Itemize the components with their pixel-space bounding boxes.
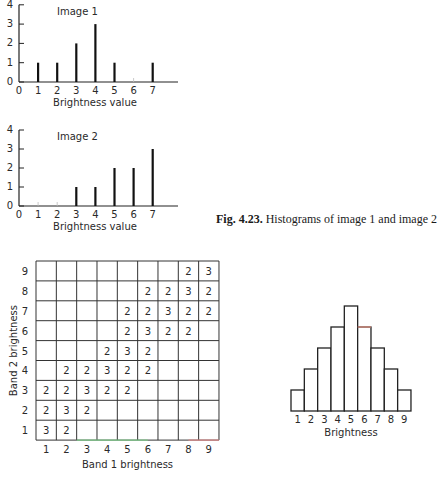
grid-cell-count: 3 — [185, 286, 191, 297]
y-tick-label: 2 — [7, 37, 13, 48]
y-tick-label: 2 — [7, 162, 13, 173]
band1-tick-label: 9 — [206, 444, 212, 455]
y-tick-label: 4 — [7, 0, 13, 10]
x-tick-label: 2 — [54, 209, 60, 220]
grid-cell-count: 2 — [84, 405, 90, 416]
histogram-bar — [398, 390, 411, 411]
x-tick-label: 3 — [73, 209, 79, 220]
grid-cell-count: 3 — [206, 266, 212, 277]
y-tick-label: 3 — [7, 143, 13, 154]
y-tick-label: 1 — [7, 181, 13, 192]
grid-cell-count: 2 — [124, 365, 130, 376]
band2-tick-label: 6 — [22, 326, 28, 337]
grid-cell-count: 3 — [84, 385, 90, 396]
grid-cell-count: 2 — [124, 385, 130, 396]
grid-cell-count: 2 — [124, 306, 130, 317]
x-tick-label: 5 — [111, 209, 117, 220]
grid-cell-count: 3 — [124, 346, 130, 357]
band1-tick-label: 4 — [104, 444, 110, 455]
band2-tick-label: 4 — [22, 365, 28, 376]
grid-cell-count: 2 — [84, 365, 90, 376]
grid-cell-count: 2 — [206, 306, 212, 317]
grid-cell-count: 2 — [165, 326, 171, 337]
brightness-tick-label: 9 — [401, 414, 407, 425]
histogram-bar — [371, 348, 384, 411]
brightness-tick-label: 6 — [361, 414, 367, 425]
histogram-bar — [304, 369, 317, 411]
grid-cell-count: 2 — [124, 326, 130, 337]
brightness-tick-label: 7 — [374, 414, 380, 425]
band2-tick-label: 5 — [22, 346, 28, 357]
x-tick-label: 5 — [111, 85, 117, 96]
grid-cell-count: 3 — [43, 425, 49, 436]
grid-cell-count: 2 — [63, 385, 69, 396]
brightness-tick-label: 3 — [321, 414, 327, 425]
figure-caption: Fig. 4.23. Histograms of image 1 and ima… — [216, 212, 437, 227]
histogram-bar — [291, 390, 304, 411]
band1-tick-label: 5 — [124, 444, 130, 455]
x-tick-label: 2 — [54, 85, 60, 96]
histogram-bar — [331, 327, 344, 411]
band1-tick-label: 6 — [145, 444, 151, 455]
grid-cell-count: 2 — [63, 425, 69, 436]
caption-text: Histograms of image 1 and image 2 — [266, 212, 437, 226]
grid-cell-count: 2 — [185, 326, 191, 337]
x-tick-label: 4 — [92, 209, 98, 220]
brightness-tick-label: 8 — [388, 414, 394, 425]
y-tick-label: 1 — [7, 57, 13, 68]
x-tick-label: 6 — [130, 209, 136, 220]
image1-histogram-title: Image 1 — [57, 6, 98, 17]
band1-axis-label: Band 1 brightness — [82, 459, 173, 470]
grid-cell-count: 2 — [206, 286, 212, 297]
brightness-axis-label: Brightness — [324, 427, 377, 438]
grid-cell-count: 3 — [165, 306, 171, 317]
x-tick-label: 7 — [150, 85, 156, 96]
band2-tick-label: 8 — [22, 286, 28, 297]
grid-cell-count: 2 — [145, 306, 151, 317]
grid-cell-count: 3 — [104, 365, 110, 376]
band1-tick-label: 1 — [43, 444, 49, 455]
x-tick-label: 7 — [150, 209, 156, 220]
grid-cell-count: 3 — [145, 326, 151, 337]
grid-cell-count: 2 — [43, 405, 49, 416]
histogram-bar — [358, 327, 371, 411]
y-tick-label: 0 — [7, 200, 13, 211]
image2-histogram-x-label: Brightness value — [53, 221, 137, 232]
grid-cell-count: 2 — [185, 266, 191, 277]
x-tick-label: 1 — [35, 85, 41, 96]
histogram-bar — [318, 348, 331, 411]
y-tick-label: 3 — [7, 18, 13, 29]
grid-cell-count: 2 — [145, 365, 151, 376]
x-tick-label: 4 — [92, 85, 98, 96]
y-tick-label: 4 — [7, 124, 13, 135]
grid-cell-count: 2 — [145, 346, 151, 357]
grid-cell-count: 3 — [63, 405, 69, 416]
image2-histogram-title: Image 2 — [57, 131, 98, 142]
x-tick-label: 0 — [16, 209, 22, 220]
figure-canvas: 0123401234567Image 1Brightness value0123… — [0, 0, 437, 483]
band2-tick-label: 3 — [22, 385, 28, 396]
histogram-bar — [344, 306, 357, 411]
grid-cell-count: 2 — [104, 385, 110, 396]
grid-cell-count: 2 — [104, 346, 110, 357]
band1-tick-label: 8 — [185, 444, 191, 455]
band2-axis-label: Band 2 brightness — [8, 305, 19, 396]
grid-cell-count: 2 — [63, 365, 69, 376]
grid-cell-count: 2 — [185, 306, 191, 317]
brightness-tick-label: 4 — [334, 414, 340, 425]
x-tick-label: 0 — [16, 85, 22, 96]
grid-cell-count: 2 — [43, 385, 49, 396]
y-tick-label: 0 — [7, 76, 13, 87]
brightness-tick-label: 2 — [308, 414, 314, 425]
histogram-bar — [384, 369, 397, 411]
brightness-tick-label: 5 — [348, 414, 354, 425]
band1-tick-label: 7 — [165, 444, 171, 455]
band2-tick-label: 2 — [22, 405, 28, 416]
grid-cell-count: 2 — [145, 286, 151, 297]
band1-tick-label: 3 — [84, 444, 90, 455]
x-tick-label: 6 — [130, 85, 136, 96]
grid-cell-count: 2 — [165, 286, 171, 297]
x-tick-label: 3 — [73, 85, 79, 96]
x-tick-label: 1 — [35, 209, 41, 220]
image1-histogram-x-label: Brightness value — [53, 97, 137, 108]
